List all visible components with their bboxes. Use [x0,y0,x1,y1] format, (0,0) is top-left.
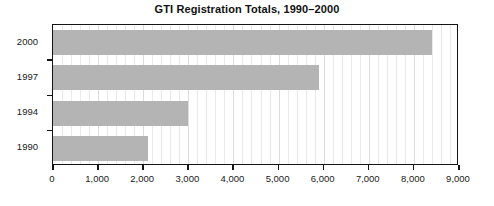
bar-row [53,30,458,55]
xtick-mark [187,165,189,170]
ytick-label-2000: 2000 [0,36,38,47]
xtick-mark [323,165,325,170]
xtick-mark [278,165,280,170]
xtick-mark [142,165,144,170]
ytick-mark [47,95,52,97]
ytick-mark [47,130,52,132]
ytick-mark [47,59,52,61]
plot-area [52,24,458,165]
bar-1990[interactable] [53,136,148,161]
bar-row [53,65,458,90]
xtick-label-9000: 9,000 [428,173,488,184]
ytick-label-1990: 1990 [0,141,38,152]
xtick-mark [232,165,234,170]
xtick-mark [458,165,460,170]
ytick-label-1997: 1997 [0,71,38,82]
xtick-mark [368,165,370,170]
bar-1994[interactable] [53,101,188,126]
bar-1997[interactable] [53,65,319,90]
xtick-mark [97,165,99,170]
chart-title: GTI Registration Totals, 1990–2000 [0,3,494,15]
bar-row [53,101,458,126]
xtick-mark [413,165,415,170]
xtick-mark [52,165,54,170]
ytick-label-1994: 1994 [0,106,38,117]
bar-chart-figure: GTI Registration Totals, 1990–2000 20001… [0,0,494,206]
bar-2000[interactable] [53,30,432,55]
bar-row [53,136,458,161]
